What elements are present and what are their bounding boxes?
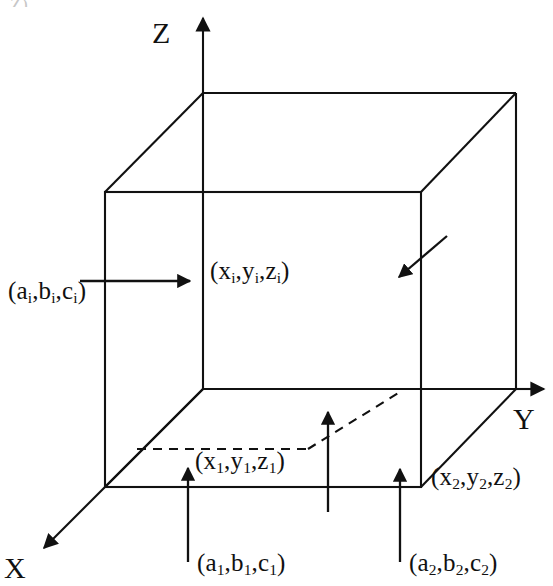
label-target-point-1: (x1,y1,z1) xyxy=(195,448,285,476)
arrow-diagonal-into-box xyxy=(399,236,447,277)
axis-label-y: Y xyxy=(513,404,535,434)
label-target-1-text: (x1,y1,z1) xyxy=(195,447,285,474)
label-source-point-1: (a1,b1,c1) xyxy=(197,550,286,578)
axis-label-z: Z xyxy=(152,18,171,48)
label-target-point-2: (x2,y2,z2) xyxy=(431,464,521,492)
label-target-i-text: (xi,yi,zi) xyxy=(210,257,290,284)
label-source-i-text: (ai,bi,ci) xyxy=(8,277,86,304)
label-target-point-i: (xi,yi,zi) xyxy=(210,258,290,286)
axis-label-x: X xyxy=(4,553,26,583)
label-target-2-text: (x2,y2,z2) xyxy=(431,463,521,490)
label-source-point-i: (ai,bi,ci) xyxy=(8,278,86,306)
hidden-edge-dashed-diagonal xyxy=(308,392,400,449)
cube-front-face xyxy=(105,192,421,487)
label-source-point-2: (a2,b2,c2) xyxy=(409,550,498,578)
label-source-2-text: (a2,b2,c2) xyxy=(409,549,498,576)
figure-canvas: Z) xyxy=(0,0,553,586)
label-source-1-text: (a1,b1,c1) xyxy=(197,549,286,576)
cube-edge-top-left-receding xyxy=(105,93,203,192)
cube-edge-top-right-receding xyxy=(421,93,516,192)
